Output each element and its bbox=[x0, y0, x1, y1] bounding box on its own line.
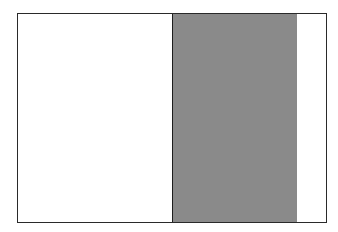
vertical-divider-line bbox=[172, 14, 173, 222]
outer-rectangle bbox=[17, 13, 327, 223]
shaded-region bbox=[172, 14, 297, 222]
